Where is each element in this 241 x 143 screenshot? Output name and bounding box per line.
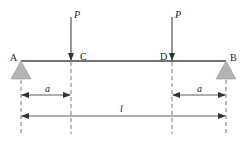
support-b-icon [216, 61, 236, 79]
label-dim-ab: l [120, 103, 123, 114]
label-c-point: C [80, 51, 87, 62]
label-load-d: P [174, 9, 181, 20]
label-dim-ac: a [45, 83, 50, 94]
label-load-c: P [73, 9, 80, 20]
beam-diagram: A C D B P P a a l [0, 0, 241, 143]
label-dim-db: a [197, 83, 202, 94]
support-a-icon [11, 61, 31, 79]
label-d-point: D [160, 51, 167, 62]
dashed-guides [21, 62, 226, 134]
label-a-point: A [10, 52, 18, 63]
label-b-point: B [230, 52, 237, 63]
